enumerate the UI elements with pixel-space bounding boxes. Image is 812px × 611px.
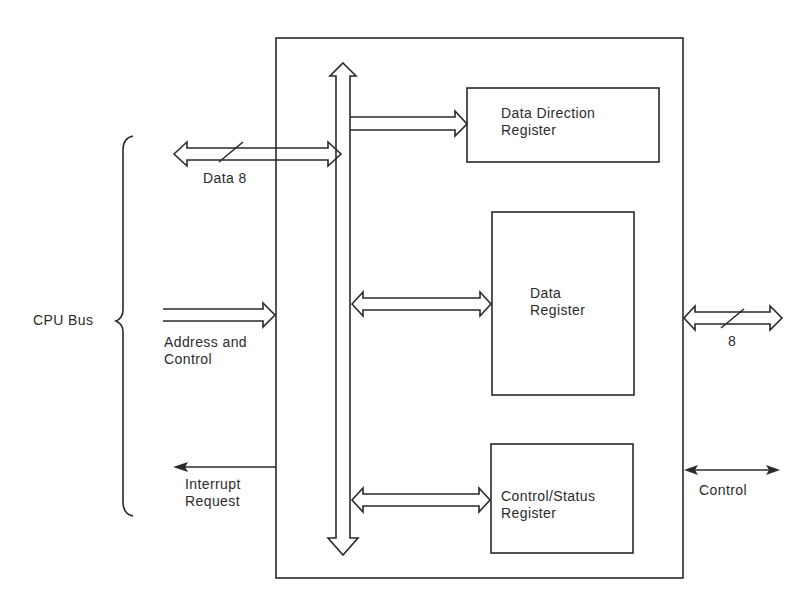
cpu-data-bus-arrow-icon: [174, 142, 341, 166]
interrupt-request-label: Interrupt Request: [185, 476, 241, 510]
address-control-label: Address and Control: [164, 334, 247, 368]
address-control-label-line-1: Address and: [164, 334, 247, 351]
cpu-bus-brace: [116, 136, 133, 516]
data-register-label: Data Register: [530, 285, 585, 319]
control-status-register-label: Control/Status Register: [501, 488, 595, 522]
diagram-canvas: [0, 0, 812, 611]
ddr-label-line-1: Data Direction: [501, 105, 595, 122]
address-control-label-line-2: Control: [164, 351, 247, 368]
data-8-label: Data 8: [203, 170, 247, 187]
csr-label-line-1: Control/Status: [501, 488, 595, 505]
dr-label-line-1: Data: [530, 285, 585, 302]
ddr-label-line-2: Register: [501, 122, 595, 139]
ddr-write-arrow-icon: [350, 111, 467, 136]
address-control-bus-arrow-icon: [163, 303, 275, 327]
port-control-label: Control: [699, 482, 747, 499]
interrupt-request-label-line-1: Interrupt: [185, 476, 241, 493]
csr-label-line-2: Register: [501, 505, 595, 522]
dr-label-line-2: Register: [530, 302, 585, 319]
port-data-width-label: 8: [728, 333, 736, 350]
dr-bidirectional-arrow-icon: [352, 292, 491, 316]
csr-bidirectional-arrow-icon: [352, 488, 490, 512]
data-width-slash: [219, 142, 243, 162]
interface-chip-box: [276, 38, 683, 578]
interrupt-request-label-line-2: Request: [185, 493, 241, 510]
cpu-bus-label: CPU Bus: [33, 312, 93, 329]
data-direction-register-label: Data Direction Register: [501, 105, 595, 139]
internal-bus-arrow-icon: [328, 63, 358, 555]
